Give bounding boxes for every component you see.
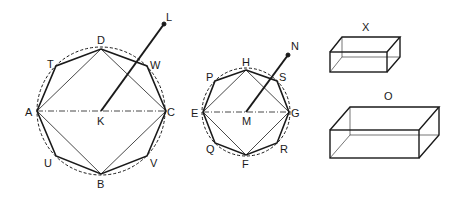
label-D: D: [97, 34, 105, 46]
middle-pointer-dot: [286, 53, 290, 57]
geometry-diagram: D T W A C K U V B L H P S E G M Q R F N …: [0, 0, 461, 198]
box-x-top-face: [330, 37, 400, 52]
label-C: C: [167, 106, 175, 118]
box-o: [330, 107, 439, 158]
label-V: V: [150, 157, 158, 169]
label-B: B: [97, 178, 104, 190]
label-X: X: [362, 21, 370, 33]
box-o-side-face: [419, 107, 439, 158]
label-F: F: [242, 158, 249, 170]
box-o-hidden-edge: [330, 135, 350, 158]
label-M: M: [242, 115, 251, 127]
label-T: T: [47, 58, 54, 70]
label-N: N: [291, 40, 299, 52]
label-P: P: [206, 71, 213, 83]
middle-octagon: [203, 70, 289, 155]
label-H: H: [242, 56, 250, 68]
box-o-top-face: [330, 107, 439, 130]
middle-square: [203, 70, 289, 155]
label-A: A: [25, 106, 33, 118]
label-R: R: [280, 143, 288, 155]
box-o-front-face: [330, 130, 419, 158]
left-octagon: [37, 49, 166, 174]
label-O: O: [384, 90, 393, 102]
label-G: G: [291, 107, 300, 119]
label-L: L: [166, 11, 172, 23]
box-x-front-face: [330, 52, 387, 72]
label-U: U: [44, 157, 52, 169]
box-x-side-face: [387, 37, 400, 72]
label-S: S: [279, 71, 286, 83]
box-x: [330, 37, 400, 72]
box-x-hidden-edge: [330, 57, 342, 72]
label-W: W: [150, 59, 161, 71]
middle-figure: [202, 53, 290, 156]
middle-pointer-line: [246, 55, 288, 112]
label-K: K: [97, 115, 105, 127]
label-Q: Q: [206, 143, 215, 155]
label-E: E: [191, 107, 198, 119]
